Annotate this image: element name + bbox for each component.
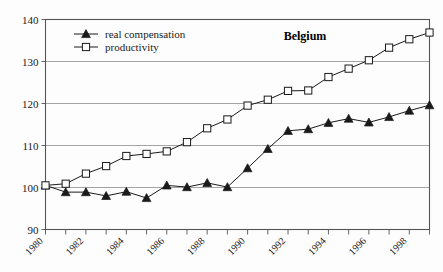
data-point-marker	[103, 162, 110, 169]
chart-figure: 90100110120130140 1980198219841986198819…	[0, 0, 443, 272]
data-point-marker	[345, 65, 352, 72]
data-point-marker	[305, 87, 312, 94]
data-point-marker	[143, 150, 150, 157]
chart-title: Belgium	[284, 29, 327, 43]
data-point-marker	[365, 57, 372, 64]
y-tick-label-120: 120	[22, 98, 39, 110]
data-point-marker	[82, 170, 89, 177]
data-point-marker	[385, 44, 392, 51]
y-tick-label-140: 140	[22, 14, 39, 26]
data-point-marker	[325, 73, 332, 80]
data-point-marker	[82, 43, 89, 50]
chart-background	[0, 0, 443, 272]
data-point-marker	[123, 152, 130, 159]
data-point-marker	[42, 182, 49, 189]
data-point-marker	[244, 102, 251, 109]
data-point-marker	[163, 148, 170, 155]
legend-label: real compensation	[105, 28, 186, 40]
data-point-marker	[264, 96, 271, 103]
y-tick-label-90: 90	[28, 224, 40, 236]
legend-label: productivity	[105, 41, 159, 53]
y-tick-label-100: 100	[22, 182, 39, 194]
data-point-marker	[62, 180, 69, 187]
data-point-marker	[224, 116, 231, 123]
data-point-marker	[284, 87, 291, 94]
line-chart-canvas: 90100110120130140 1980198219841986198819…	[0, 0, 443, 272]
data-point-marker	[183, 139, 190, 146]
data-point-marker	[204, 125, 211, 132]
y-tick-label-130: 130	[22, 56, 39, 68]
data-point-marker	[406, 36, 413, 43]
y-tick-label-110: 110	[22, 140, 39, 152]
data-point-marker	[426, 29, 433, 36]
